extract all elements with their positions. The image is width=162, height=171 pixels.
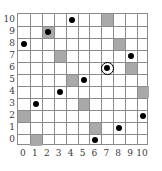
- x-axis-tick-label: 2: [44, 149, 50, 158]
- x-axis-tick-label: 5: [80, 149, 86, 158]
- x-axis-tick-label: 9: [127, 149, 133, 158]
- x-axis-tick-label: 6: [92, 149, 98, 158]
- x-axis-tick-label: 8: [115, 149, 121, 158]
- x-axis-tick-label: 7: [103, 149, 109, 158]
- x-axis-tick-labels: 012345678910: [0, 0, 162, 171]
- x-axis-tick-label: 10: [136, 149, 147, 158]
- x-axis-tick-label: 0: [20, 149, 26, 158]
- x-axis-tick-label: 1: [32, 149, 38, 158]
- x-axis-tick-label: 3: [56, 149, 62, 158]
- x-axis-tick-label: 4: [68, 149, 74, 158]
- chart-figure: 012345678910 012345678910: [0, 0, 162, 171]
